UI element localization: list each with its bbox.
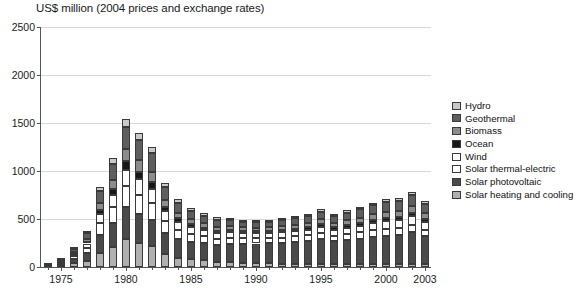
bar-segment — [213, 245, 220, 262]
bar-segment — [226, 230, 233, 232]
bar-segment — [343, 220, 350, 225]
bar-segment — [174, 213, 181, 219]
bar-segment — [291, 216, 298, 218]
bar-segment — [304, 264, 311, 267]
bar-segment — [278, 220, 285, 226]
bar-segment — [291, 229, 298, 231]
bar-1999 — [369, 203, 376, 268]
bar-segment — [278, 230, 285, 232]
bar-segment — [70, 254, 77, 256]
bar-segment — [174, 239, 181, 258]
bar-segment — [343, 213, 350, 220]
bar-segment — [330, 227, 337, 229]
y-tick-label: 2500 — [12, 21, 41, 33]
bar-segment — [291, 218, 298, 224]
bar-segment — [213, 239, 220, 245]
bar-segment — [135, 214, 142, 243]
bar-segment — [265, 220, 272, 222]
bar-segment — [343, 210, 350, 212]
bar-segment — [83, 231, 90, 233]
bar-1991 — [265, 220, 272, 267]
legend-swatch-icon — [452, 140, 461, 148]
bar-segment — [122, 127, 129, 149]
x-tick-mark-minor — [48, 267, 49, 270]
bar-segment — [187, 211, 194, 219]
x-tick-mark-minor — [295, 267, 296, 270]
legend-label: Ocean — [465, 139, 493, 149]
bar-segment — [148, 189, 155, 203]
bar-segment — [278, 232, 285, 237]
bar-segment — [356, 223, 363, 226]
x-tick-label: 1995 — [309, 273, 332, 285]
bar-segment — [135, 195, 142, 214]
bar-segment — [382, 212, 389, 218]
bar-segment — [408, 216, 415, 225]
bar-segment — [239, 222, 246, 228]
bar-1987 — [213, 217, 220, 267]
bar-segment — [239, 238, 246, 244]
gridline — [41, 123, 431, 124]
bar-segment — [187, 224, 194, 227]
bar-segment — [408, 206, 415, 213]
y-tick-label: 2000 — [12, 69, 41, 81]
bar-segment — [83, 239, 90, 242]
bar-segment — [343, 225, 350, 227]
bar-1989 — [239, 220, 246, 267]
bar-segment — [330, 230, 337, 236]
bar-segment — [200, 213, 207, 215]
bar-segment — [395, 220, 402, 228]
x-tick-mark-minor — [165, 267, 166, 270]
bar-segment — [304, 235, 311, 241]
bar-segment — [317, 264, 324, 267]
bar-segment — [83, 233, 90, 239]
bar-segment — [317, 239, 324, 263]
bar-1975 — [57, 259, 64, 267]
legend-item-solar-heating-and-cooling[interactable]: Solar heating and cooling — [452, 190, 573, 200]
legend-item-ocean[interactable]: Ocean — [452, 139, 573, 149]
bar-segment — [226, 262, 233, 267]
bar-segment — [96, 253, 103, 267]
bar-segment — [278, 243, 285, 264]
legend-item-hydro[interactable]: Hydro — [452, 101, 573, 111]
bar-segment — [369, 205, 376, 214]
bar-segment — [330, 236, 337, 242]
x-tick-mark-minor — [360, 267, 361, 270]
bar-segment — [382, 229, 389, 236]
legend-item-biomass[interactable]: Biomass — [452, 126, 573, 136]
bar-1988 — [226, 218, 233, 267]
bar-segment — [239, 227, 246, 231]
bar-segment — [265, 222, 272, 228]
legend-item-geothermal[interactable]: Geothermal — [452, 114, 573, 124]
bar-segment — [369, 214, 376, 220]
bar-1978 — [96, 187, 103, 267]
bar-segment — [265, 238, 272, 243]
bar-segment — [395, 228, 402, 235]
bar-segment — [109, 189, 116, 195]
bar-segment — [109, 164, 116, 180]
bar-segment — [252, 263, 259, 267]
bar-segment — [109, 247, 116, 267]
legend-item-wind[interactable]: Wind — [452, 152, 573, 162]
bar-segment — [161, 211, 168, 221]
bar-segment — [148, 220, 155, 246]
legend-item-solar-thermal-electric[interactable]: Solar thermal-electric — [452, 164, 573, 174]
x-tick-mark — [256, 267, 257, 271]
bar-segment — [239, 231, 246, 233]
bar-segment — [330, 264, 337, 267]
x-tick-mark — [386, 267, 387, 271]
bar-segment — [226, 238, 233, 244]
bar-1998 — [356, 207, 363, 267]
bar-segment — [330, 223, 337, 227]
x-tick-mark-minor — [217, 267, 218, 270]
bar-segment — [135, 133, 142, 140]
legend-item-solar-photovoltaic[interactable]: Solar photovoltaic — [452, 177, 573, 187]
bar-segment — [213, 227, 220, 231]
bar-segment — [174, 230, 181, 239]
bar-segment — [187, 219, 194, 224]
x-tick-label: 1985 — [179, 273, 202, 285]
bar-1985 — [187, 208, 194, 267]
plot-area: 05001000150020002500 1975198019851990199… — [40, 27, 431, 268]
bar-segment — [265, 227, 272, 231]
bar-segment — [96, 223, 103, 235]
bar-segment — [252, 220, 259, 222]
